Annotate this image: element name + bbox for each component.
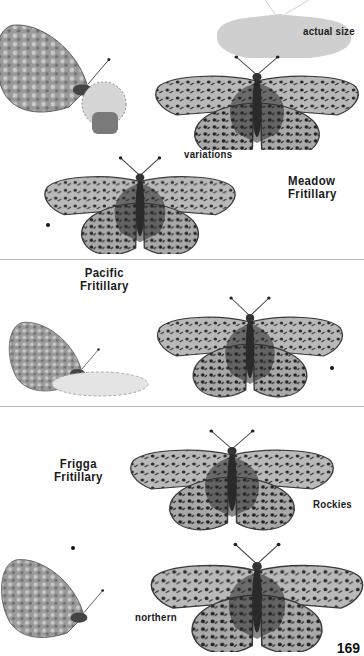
- section-frigga-fritillary: Frigga Fritillary Rockies northern 169: [0, 407, 364, 652]
- meadow-variation-figure: [40, 140, 240, 254]
- page-number: 169: [337, 640, 360, 656]
- section-pacific-fritillary: Pacific Fritillary: [0, 260, 364, 396]
- pacific-upperside-figure: [155, 278, 345, 398]
- frigga-rockies-figure: [130, 407, 335, 532]
- meadow-underside-figure: [0, 0, 150, 140]
- species-title-meadow: Meadow Fritillary: [288, 174, 337, 200]
- northern-label: northern: [135, 611, 177, 623]
- section-meadow-fritillary: actual size variations Meadow Fritillary: [0, 0, 364, 254]
- pacific-underside-figure: [0, 300, 155, 400]
- frigga-northern-figure: [150, 522, 364, 652]
- actual-size-label: actual size: [303, 25, 355, 37]
- daisy-flower-icon: [52, 372, 148, 396]
- rockies-label: Rockies: [313, 498, 352, 510]
- meadow-upperside-figure: [150, 40, 364, 150]
- species-title-pacific: Pacific Fritillary: [80, 266, 129, 292]
- frigga-underside-figure: [0, 532, 155, 642]
- species-title-frigga: Frigga Fritillary: [54, 457, 103, 483]
- thistle-flower-icon: [82, 82, 126, 134]
